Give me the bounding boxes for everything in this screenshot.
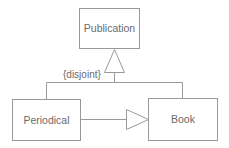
class-periodical-label: Periodical (23, 114, 69, 126)
class-publication[interactable]: Publication (80, 9, 140, 49)
class-publication-label: Publication (84, 22, 136, 34)
class-book-label: Book (171, 113, 196, 125)
uml-diagram: Publication {disjoint} Periodical Book (0, 0, 229, 148)
class-periodical[interactable]: Periodical (13, 100, 81, 141)
class-book[interactable]: Book (149, 99, 218, 141)
generalization-arrowhead-icon (105, 50, 125, 73)
disjoint-constraint-label: {disjoint} (63, 69, 101, 80)
periodical-to-book-arrowhead-icon (127, 110, 149, 130)
